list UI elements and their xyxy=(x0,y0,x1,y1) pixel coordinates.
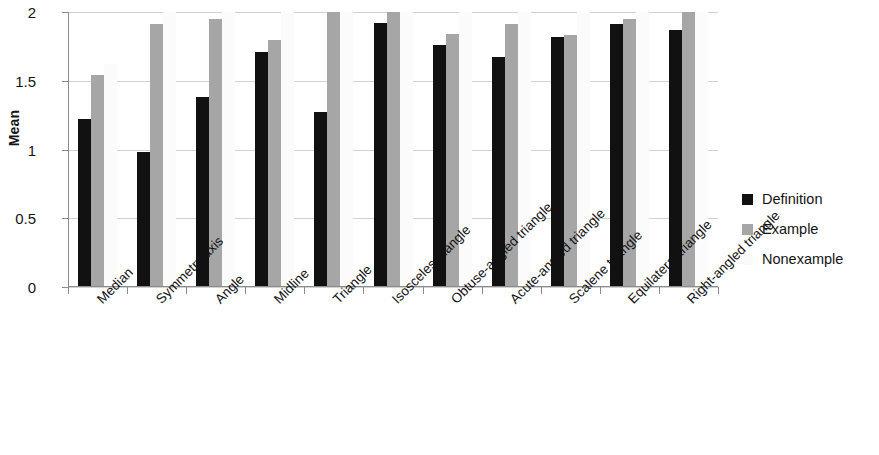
x-tick-mark xyxy=(127,287,128,294)
legend-swatch-definition xyxy=(742,194,753,205)
x-tick-mark xyxy=(304,287,305,294)
y-tick-label: 0 xyxy=(0,279,36,296)
x-tick-mark xyxy=(186,287,187,294)
y-tick-label: 1 xyxy=(0,141,36,158)
x-tick-mark xyxy=(659,287,660,294)
y-tick-label: 1.5 xyxy=(0,72,36,89)
legend-item: Example xyxy=(742,214,877,244)
x-tick-mark xyxy=(363,287,364,294)
chart-legend: DefinitionExampleNonexample xyxy=(742,184,877,274)
legend-item: Nonexample xyxy=(742,244,877,274)
bar-chart: Mean 00.511.52 MedianSymmetry axisAngleM… xyxy=(0,0,879,455)
x-tick-mark xyxy=(245,287,246,294)
x-tick-mark xyxy=(541,287,542,294)
legend-swatch-nonexample xyxy=(742,254,753,265)
legend-label: Nonexample xyxy=(762,251,843,267)
y-tick-label: 0.5 xyxy=(0,210,36,227)
legend-label: Example xyxy=(762,221,818,237)
x-tick-mark xyxy=(68,287,69,294)
legend-swatch-example xyxy=(742,224,753,235)
y-axis-line xyxy=(68,12,69,287)
y-tick-label: 2 xyxy=(0,4,36,21)
x-axis-category-labels: MedianSymmetry axisAngleMidlineTriangleI… xyxy=(68,296,718,446)
x-tick-mark xyxy=(423,287,424,294)
x-tick-mark xyxy=(600,287,601,294)
x-tick-mark xyxy=(718,287,719,294)
legend-item: Definition xyxy=(742,184,877,214)
x-tick-mark xyxy=(482,287,483,294)
legend-label: Definition xyxy=(762,191,822,207)
